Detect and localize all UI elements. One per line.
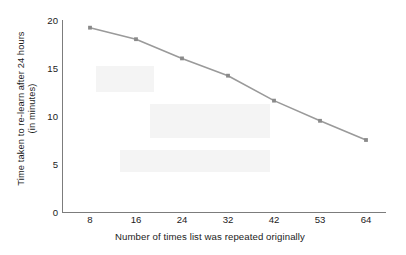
x-tick-label: 16 <box>116 214 156 225</box>
line-chart-figure: Time taken to re-learn after 24 hours (i… <box>0 0 406 255</box>
x-axis-title: Number of times list was repeated origin… <box>40 231 380 242</box>
x-axis-tick-labels: 8 16 24 32 42 53 64 <box>62 214 386 230</box>
data-point-marker <box>364 138 368 142</box>
data-point-marker <box>88 26 92 30</box>
series-polyline <box>90 28 366 140</box>
series-markers <box>88 26 368 142</box>
y-tick-label: 5 <box>36 159 58 170</box>
y-tick-label: 15 <box>36 63 58 74</box>
data-point-marker <box>134 37 138 41</box>
x-tick-label: 8 <box>70 214 110 225</box>
y-tick-label: 20 <box>36 15 58 26</box>
plot-area <box>62 20 386 213</box>
x-tick-label: 42 <box>254 214 294 225</box>
x-tick-label: 24 <box>162 214 202 225</box>
data-point-marker <box>180 57 184 61</box>
data-point-marker <box>226 74 230 78</box>
data-series-line <box>62 20 386 213</box>
y-tick-label: 10 <box>36 111 58 122</box>
y-axis-tick-labels: 20 15 10 5 0 <box>33 0 58 255</box>
data-point-marker <box>272 99 276 103</box>
x-tick-label: 64 <box>346 214 386 225</box>
x-tick-label: 53 <box>300 214 340 225</box>
x-tick-label: 32 <box>208 214 248 225</box>
y-tick-label: 0 <box>36 207 58 218</box>
data-point-marker <box>318 119 322 123</box>
